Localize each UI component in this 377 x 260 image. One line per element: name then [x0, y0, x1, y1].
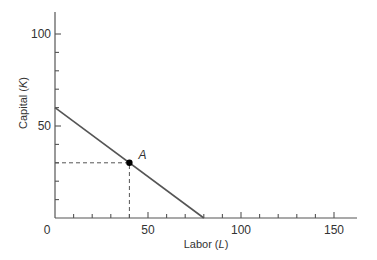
point-a-marker — [126, 160, 132, 166]
y-tick-label: 100 — [31, 27, 51, 41]
origin-label: 0 — [44, 223, 51, 237]
y-axis-label: Capital (K) — [17, 77, 29, 129]
x-tick-label: 50 — [141, 223, 155, 237]
y-tick-label: 50 — [38, 119, 52, 133]
x-tick-label: 100 — [231, 223, 251, 237]
dashed-guides — [55, 163, 129, 218]
y-ticks — [55, 34, 61, 200]
x-tick-label: 150 — [324, 223, 344, 237]
isocost-chart: 50100150 50100 0 A Labor (L) Capital (K) — [0, 0, 377, 260]
y-tick-labels: 50100 — [31, 27, 51, 133]
x-axis-label: Labor (L) — [184, 238, 229, 250]
axes — [55, 12, 357, 218]
point-a-label: A — [137, 148, 146, 162]
x-tick-labels: 50100150 — [141, 223, 344, 237]
data-points: A — [126, 148, 146, 166]
